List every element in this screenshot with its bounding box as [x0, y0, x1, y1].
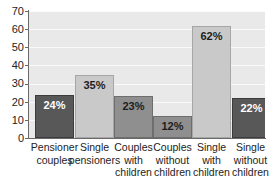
- bar-value-label: 24%: [36, 99, 73, 111]
- x-axis-line: [28, 138, 266, 139]
- y-tick-label: 50: [2, 42, 24, 53]
- y-axis: 70 60 50 40 30 20 10 0: [0, 0, 24, 182]
- x-label-single-without-children: Single without children: [223, 141, 270, 179]
- y-tick-mark: [25, 138, 29, 139]
- y-tick-mark: [25, 65, 29, 66]
- x-label-line: children: [223, 166, 270, 179]
- y-tick-mark: [25, 29, 29, 30]
- y-tick-label: 60: [2, 24, 24, 35]
- bar-couples-without-children[interactable]: 12%: [153, 116, 192, 138]
- y-tick-mark: [25, 47, 29, 48]
- y-tick-mark: [25, 11, 29, 12]
- y-tick-mark: [25, 84, 29, 85]
- bar-value-label: 62%: [193, 30, 230, 42]
- bar-value-label: 35%: [76, 79, 113, 91]
- y-tick-label: 20: [2, 97, 24, 108]
- bar-value-label: 23%: [115, 100, 152, 112]
- y-tick-label: 70: [2, 6, 24, 17]
- bar-value-label: 12%: [154, 120, 191, 132]
- y-tick-mark: [25, 120, 29, 121]
- gridline: [28, 11, 265, 12]
- bar-pensioner-couples[interactable]: 24%: [35, 95, 74, 139]
- plot-area: 24% 35% 23% 12% 62% 22%: [28, 11, 265, 138]
- bar-chart: 24% 35% 23% 12% 62% 22% 70 60 50 40 30 2…: [0, 0, 270, 182]
- x-label-line: Single: [223, 141, 270, 154]
- bar-single-pensioners[interactable]: 35%: [75, 75, 114, 139]
- y-tick-label: 0: [2, 133, 24, 144]
- bar-single-without-children[interactable]: 22%: [232, 98, 265, 138]
- y-tick-mark: [25, 102, 29, 103]
- y-tick-label: 30: [2, 78, 24, 89]
- x-axis-labels: Pensioner couples Single pensioners Coup…: [28, 141, 265, 182]
- bar-value-label: 22%: [233, 102, 265, 114]
- y-tick-label: 40: [2, 60, 24, 71]
- y-tick-label: 10: [2, 115, 24, 126]
- bar-couples-with-children[interactable]: 23%: [114, 96, 153, 138]
- x-label-line: without: [223, 154, 270, 167]
- bar-single-with-children[interactable]: 62%: [192, 26, 231, 139]
